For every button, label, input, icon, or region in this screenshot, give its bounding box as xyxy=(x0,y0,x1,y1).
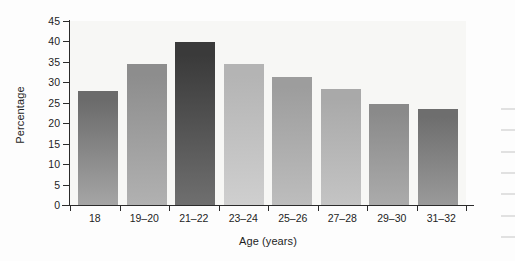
y-axis-tick-label: 40 xyxy=(34,36,60,47)
y-axis-tick-label: 35 xyxy=(34,57,60,68)
y-axis-tick-label: 15 xyxy=(34,139,60,150)
y-axis-tick xyxy=(63,41,69,42)
bar-slot xyxy=(268,21,317,205)
bar-chart-figure: Percentage 454035302520151050 1819–2021–… xyxy=(0,0,515,261)
y-axis-tick xyxy=(63,103,69,104)
x-axis-tick xyxy=(466,206,467,211)
y-axis-tick xyxy=(63,205,69,206)
bar-slot xyxy=(365,21,414,205)
y-axis-tick xyxy=(63,144,69,145)
y-axis-tick xyxy=(63,21,69,22)
bar xyxy=(418,109,458,205)
bars-container xyxy=(70,21,466,205)
x-axis-tick xyxy=(70,206,71,211)
bar xyxy=(175,42,215,205)
x-axis-tick xyxy=(367,206,368,211)
bar xyxy=(224,64,264,205)
x-axis-tick xyxy=(318,206,319,211)
y-axis-tick-label: 45 xyxy=(34,16,60,27)
x-axis-tick xyxy=(268,206,269,211)
x-axis-tick xyxy=(169,206,170,211)
bar-slot xyxy=(317,21,366,205)
bar-slot xyxy=(171,21,220,205)
x-axis-title: Age (years) xyxy=(70,235,466,247)
y-axis-tick xyxy=(63,123,69,124)
y-axis-tick xyxy=(63,164,69,165)
y-axis-tick-label: 10 xyxy=(34,159,60,170)
bar-slot xyxy=(220,21,269,205)
y-axis-tick xyxy=(63,82,69,83)
x-axis-tick xyxy=(120,206,121,211)
y-axis-tick-label: 0 xyxy=(34,200,60,211)
bar xyxy=(78,91,118,205)
bar-slot xyxy=(74,21,123,205)
y-axis-tick-label: 20 xyxy=(34,118,60,129)
bar xyxy=(321,89,361,205)
bar-slot xyxy=(123,21,172,205)
bar-slot xyxy=(414,21,463,205)
y-axis-tick-label: 30 xyxy=(34,77,60,88)
page-edge-bleed xyxy=(501,108,515,238)
bar xyxy=(272,77,312,205)
x-axis-tick xyxy=(219,206,220,211)
y-axis-tick xyxy=(63,185,69,186)
bar xyxy=(369,104,409,205)
y-axis-title: Percentage xyxy=(14,55,28,175)
plot-area xyxy=(70,21,466,205)
y-axis-tick-label: 5 xyxy=(34,180,60,191)
y-axis-tick-label: 25 xyxy=(34,98,60,109)
y-axis-tick xyxy=(63,62,69,63)
bar xyxy=(127,64,167,205)
x-axis-tick xyxy=(417,206,418,211)
x-axis-tick-label: 31–32 xyxy=(411,213,471,224)
